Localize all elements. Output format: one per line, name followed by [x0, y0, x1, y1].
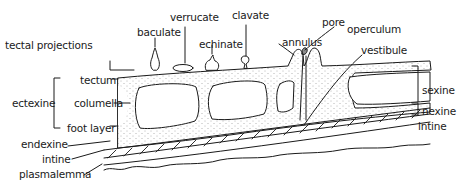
- endexine-leader: [68, 141, 110, 146]
- verrucate-projection: [173, 65, 193, 72]
- label-foot-layer: foot layer: [67, 122, 115, 134]
- label-tectum: tectum: [80, 74, 116, 86]
- operculum-shape: [302, 48, 307, 55]
- label-clavate: clavate: [232, 9, 269, 21]
- clavate-projection: [241, 56, 249, 68]
- label-pore: pore: [322, 16, 345, 28]
- plasmalemma-line: [104, 144, 430, 170]
- baculate-projection: [151, 48, 160, 70]
- label-tectal-projections: tectal projections: [5, 39, 92, 51]
- lumen-3: [277, 81, 294, 112]
- label-verrucate: verrucate: [170, 11, 219, 23]
- intine-left-leader: [72, 150, 104, 159]
- label-baculate: baculate: [137, 26, 181, 38]
- label-nexine: nexine: [422, 105, 456, 117]
- label-ectexine: ectexine: [12, 97, 55, 109]
- lumen-1: [135, 84, 199, 129]
- label-operculum: operculum: [347, 23, 401, 35]
- label-vestibule: vestibule: [361, 44, 407, 56]
- label-intine-right: intine: [418, 120, 447, 132]
- tectal-projections-leader: [110, 61, 134, 70]
- label-annulus: annulus: [282, 36, 322, 48]
- label-columella: columella: [74, 97, 123, 109]
- label-endexine: endexine: [21, 138, 68, 150]
- pollen-wall-diagram: tectal projections baculate verrucate ec…: [0, 0, 460, 191]
- lumen-2: [208, 81, 267, 120]
- label-intine-left: intine: [42, 153, 71, 165]
- label-sexine: sexine: [422, 84, 455, 96]
- label-plasmalemma: plasmalemma: [19, 168, 91, 180]
- label-echinate: echinate: [199, 38, 243, 50]
- echinate-projection: [205, 55, 219, 70]
